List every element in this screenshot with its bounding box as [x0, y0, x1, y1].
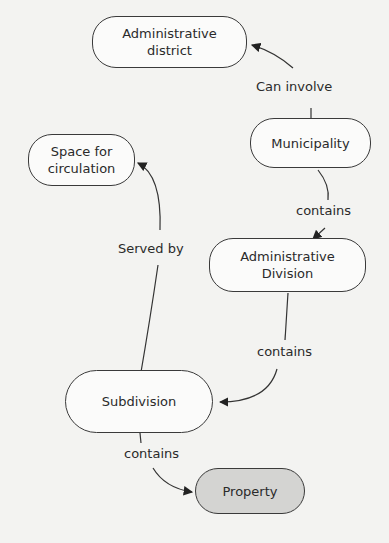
- node-administrative-district[interactable]: Administrative district: [92, 16, 247, 68]
- edge-label-can-involve: Can involve: [254, 79, 334, 94]
- node-subdivision[interactable]: Subdivision: [65, 370, 213, 433]
- node-administrative-division[interactable]: Administrative Division: [209, 238, 366, 292]
- node-space-for-circulation[interactable]: Space for circulation: [28, 134, 135, 186]
- edge-label-contains-subdivision: contains: [122, 446, 181, 461]
- edge-label-contains-division: contains: [255, 344, 314, 359]
- edge-label-served-by: Served by: [116, 241, 186, 256]
- edge-label-contains-municipality: contains: [294, 203, 353, 218]
- node-municipality[interactable]: Municipality: [250, 118, 371, 168]
- node-property[interactable]: Property: [195, 468, 305, 514]
